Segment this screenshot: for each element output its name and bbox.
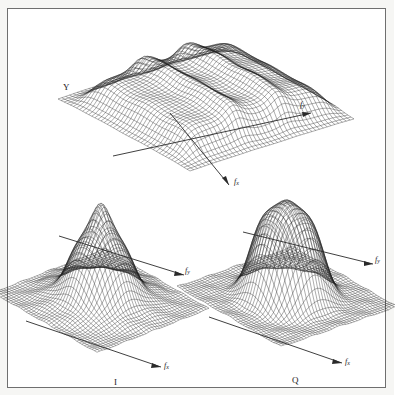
panel-I-fx-label: fx (164, 362, 169, 370)
panel-Q-fx-arrowhead (332, 359, 342, 364)
panel-Y-axes (113, 112, 311, 185)
panel-Y-fx-axis (170, 113, 229, 185)
panel-Q-fy-label: fy (375, 256, 380, 264)
panel-Y-title: Y (63, 83, 70, 92)
panel-Y: fy fx Y (1, 1, 395, 206)
panel-Q-surface (187, 197, 395, 395)
panel-Y-fy-label: fy (300, 101, 305, 109)
panel-Y-surface (1, 1, 395, 206)
panel-I-fx-arrowhead (151, 363, 161, 368)
panel-Q: fy fx Q (187, 197, 395, 395)
panel-I-fx-axis (26, 321, 161, 367)
panel-Q-fx-axis (209, 317, 342, 363)
figure-frame: fy fx Y fy fx (7, 8, 386, 388)
panel-Y-fx-label: fx (234, 178, 239, 186)
panel-I-fy-arrowhead (174, 271, 184, 276)
panel-Q-fx-label: fx (345, 358, 350, 366)
panel-I-title: I (114, 378, 117, 387)
panel-Q-title: Q (292, 376, 299, 385)
panel-I: fy fx I (1, 197, 201, 395)
panel-I-surface (1, 197, 201, 395)
